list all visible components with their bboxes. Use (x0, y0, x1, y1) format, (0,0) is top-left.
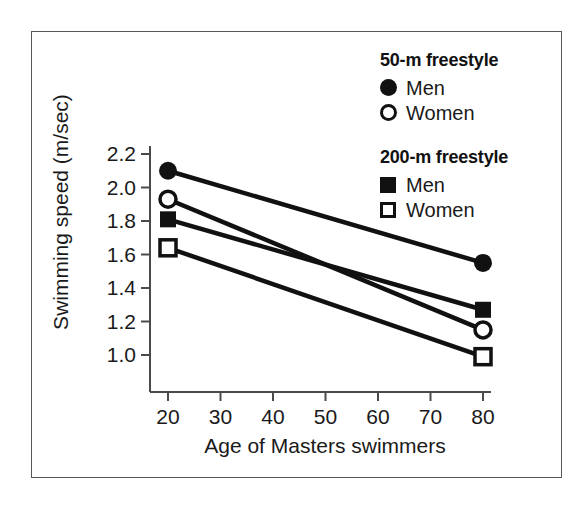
legend-item-open-square[interactable]: Women (380, 197, 555, 222)
filled-circle-icon (380, 79, 406, 96)
x-tick-label: 30 (196, 406, 246, 427)
y-tick-label: 2.0 (80, 177, 136, 198)
y-tick-label: 1.2 (80, 311, 136, 332)
x-tick-label: 20 (143, 406, 193, 427)
marker-open-square-3-0 (160, 240, 176, 256)
marker-filled-square-2-1 (475, 302, 491, 318)
legend-item-open-circle[interactable]: Women (380, 100, 555, 125)
x-axis-title: Age of Masters swimmers (140, 434, 510, 458)
legend-item-label: Women (406, 200, 475, 220)
filled-circle-glyph (380, 79, 397, 96)
marker-filled-circle-0-0 (159, 162, 177, 180)
y-tick-label: 1.8 (80, 210, 136, 231)
y-tick-label: 1.6 (80, 244, 136, 265)
marker-filled-circle-0-1 (474, 254, 492, 272)
x-tick-label: 80 (458, 406, 508, 427)
y-tick-label: 2.2 (80, 143, 136, 164)
open-circle-glyph (380, 104, 397, 121)
x-tick-label: 50 (301, 406, 351, 427)
y-axis-title: Swimming speed (m/sec) (49, 87, 73, 337)
legend-item-label: Women (406, 103, 475, 123)
legend-item-filled-circle[interactable]: Men (380, 75, 555, 100)
legend-group-0: 50-m freestyleMenWomen (380, 50, 555, 125)
marker-open-circle-1-0 (160, 191, 176, 207)
marker-open-circle-1-1 (475, 322, 491, 338)
legend-group-1: 200-m freestyleMenWomen (380, 147, 555, 222)
chart-legend: 50-m freestyleMenWomen200-m freestyleMen… (380, 50, 555, 244)
x-tick-label: 60 (353, 406, 403, 427)
filled-square-icon (380, 177, 406, 193)
legend-item-label: Men (406, 175, 445, 195)
y-tick-label: 1.4 (80, 277, 136, 298)
x-tick-label: 70 (406, 406, 456, 427)
chart-plot-area: 1.01.21.41.61.82.02.2 20304050607080 Swi… (0, 0, 585, 510)
y-tick-label: 1.0 (80, 344, 136, 365)
legend-item-label: Men (406, 78, 445, 98)
open-square-glyph (380, 202, 396, 218)
legend-item-filled-square[interactable]: Men (380, 172, 555, 197)
filled-square-glyph (380, 177, 396, 193)
legend-group-title: 50-m freestyle (380, 50, 555, 71)
legend-group-title: 200-m freestyle (380, 147, 555, 168)
open-circle-icon (380, 104, 406, 121)
open-square-icon (380, 202, 406, 218)
x-tick-label: 40 (248, 406, 298, 427)
marker-open-square-3-1 (475, 349, 491, 365)
marker-filled-square-2-0 (160, 211, 176, 227)
figure-root: 1.01.21.41.61.82.02.2 20304050607080 Swi… (0, 0, 585, 510)
